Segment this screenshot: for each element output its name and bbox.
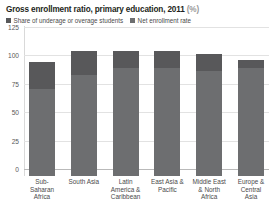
legend-swatch-icon [130, 18, 135, 23]
bar-column-latin-america-caribbean[interactable] [112, 26, 140, 176]
bar-segment-share-underage-overage [71, 51, 97, 75]
legend-label: Share of underage or overage students [14, 17, 124, 24]
chart-title-text: Gross enrollment ratio, primary educatio… [6, 5, 185, 14]
y-axis-tick: 50 [12, 109, 19, 116]
legend-item-share-underage-overage: Share of underage or overage students [6, 17, 123, 24]
chart-title: Gross enrollment ratio, primary educatio… [6, 5, 271, 15]
bar-segment-share-underage-overage [238, 60, 264, 68]
bar-series [24, 26, 269, 176]
plot-area: 125 100 75 50 25 0 [3, 26, 271, 176]
stacked-bar [113, 51, 139, 176]
y-axis-tick: 125 [8, 24, 19, 31]
bar-segment-net-enrollment-rate [113, 68, 139, 176]
bar-column-sub-saharan-africa[interactable] [28, 26, 56, 176]
stacked-bar [154, 51, 180, 176]
x-axis-labels: Sub-Saharan Africa South Asia Latin Amer… [24, 178, 269, 201]
bar-column-europe-central-asia[interactable] [237, 26, 265, 176]
y-axis-tick: 25 [12, 137, 19, 144]
y-axis: 125 100 75 50 25 0 [3, 26, 23, 176]
y-axis-tick: 0 [15, 166, 19, 173]
bar-segment-net-enrollment-rate [196, 71, 222, 176]
x-axis-label: East Asia & Pacific [150, 178, 184, 201]
chart-container: Gross enrollment ratio, primary educatio… [0, 0, 273, 210]
chart-legend: Share of underage or overage students Ne… [6, 17, 271, 24]
y-axis-tick: 75 [12, 80, 19, 87]
grid-area [24, 26, 269, 176]
x-axis-label: Europe & Central Asia [234, 178, 268, 201]
x-axis-label: Latin America & Caribbean [109, 178, 143, 201]
bar-segment-share-underage-overage [113, 51, 139, 68]
chart-title-unit: (%) [187, 5, 199, 14]
stacked-bar [71, 51, 97, 176]
bar-column-south-asia[interactable] [70, 26, 98, 176]
bar-segment-net-enrollment-rate [154, 68, 180, 176]
bar-segment-net-enrollment-rate [29, 89, 55, 177]
x-axis-label: Sub-Saharan Africa [25, 178, 59, 201]
bar-segment-net-enrollment-rate [238, 68, 264, 176]
stacked-bar [196, 54, 222, 176]
bar-column-east-asia-pacific[interactable] [153, 26, 181, 176]
y-axis-tick: 100 [8, 52, 19, 59]
legend-item-net-enrollment-rate: Net enrollment rate [130, 17, 191, 24]
bar-segment-share-underage-overage [154, 51, 180, 68]
bar-column-middle-east-north-africa[interactable] [195, 26, 223, 176]
bar-segment-share-underage-overage [29, 62, 55, 88]
bar-segment-net-enrollment-rate [71, 75, 97, 176]
legend-label: Net enrollment rate [138, 17, 192, 24]
x-axis-label: South Asia [67, 178, 101, 201]
x-axis-label: Middle East & North Africa [192, 178, 226, 201]
legend-swatch-icon [6, 18, 11, 23]
stacked-bar [238, 60, 264, 176]
bar-segment-share-underage-overage [196, 54, 222, 71]
stacked-bar [29, 62, 55, 176]
